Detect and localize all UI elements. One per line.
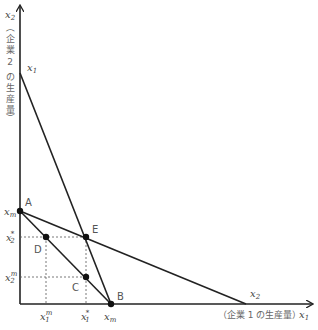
svg-text:企: 企 (6, 33, 15, 44)
y-tick-x2-star: x*2 (6, 230, 15, 245)
x-tick-xm: xm (104, 311, 117, 324)
label-a: A (25, 197, 32, 208)
label-c: C (72, 282, 79, 293)
svg-text:生: 生 (6, 82, 15, 93)
x-tick-x1-m: xm1 (40, 309, 53, 324)
guide-lines (20, 237, 86, 304)
reaction-curve-firm1 (20, 73, 111, 304)
y-axis-label: （ 企 業 2 の 生 産 量 ） (5, 23, 15, 122)
svg-text:）: ） (5, 113, 15, 122)
reaction-curve-firm2 (20, 211, 246, 304)
label-b: B (117, 291, 124, 302)
point-b (108, 301, 114, 307)
line-label-x1: x1 (27, 62, 37, 75)
line-label-x2: x2 (250, 288, 261, 301)
cournot-diagram: A B C D E x2 （ 企 業 2 の 生 産 量 ） （企業 1 の生産… (0, 0, 318, 330)
svg-text:産: 産 (6, 93, 15, 104)
x-axis-label: （企業 1 の生産量） (218, 309, 301, 320)
point-e (83, 234, 89, 240)
label-e: E (92, 224, 98, 235)
y-axis-symbol: x2 (5, 9, 16, 22)
svg-text:業: 業 (6, 44, 15, 55)
x-axis-symbol: x1 (299, 309, 309, 322)
y-tick-x2-m: xm2 (5, 270, 18, 285)
point-a (17, 208, 23, 214)
svg-text:2: 2 (7, 57, 13, 67)
y-tick-xm: xm (4, 206, 17, 219)
x-tick-x1-star: x*1 (81, 309, 90, 324)
svg-text:（: （ (5, 23, 15, 32)
point-c (83, 274, 89, 280)
label-d: D (34, 244, 42, 255)
point-d (43, 234, 49, 240)
svg-text:の: の (6, 72, 15, 82)
